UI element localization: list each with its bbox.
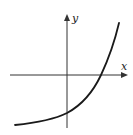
y-axis-arrow-icon [64, 14, 70, 21]
function-graph: x y [0, 0, 133, 135]
x-axis [10, 72, 128, 78]
y-axis-label: y [71, 12, 79, 25]
x-axis-label: x [121, 60, 128, 73]
